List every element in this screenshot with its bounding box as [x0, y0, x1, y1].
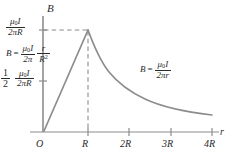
denominator-2piR: 2πR [6, 28, 25, 37]
y-tick-label-peak: μ0I 2πR [6, 17, 25, 37]
x-tick-label-2R: 2R [120, 139, 131, 149]
curve-inside-linear [44, 30, 88, 131]
x-axis-label: r [220, 127, 224, 137]
plot-canvas [0, 0, 230, 159]
denominator-2piR: 2πR [15, 79, 34, 88]
equals-sign: = [148, 65, 153, 74]
one-half-fraction: 1 2 [1, 68, 10, 89]
x-tick-label-4R: 4R [204, 139, 215, 149]
equation-lhs: B [140, 65, 146, 74]
equation-inside-wire: B = μ0I 2π r R2 [6, 44, 50, 64]
fraction-mu0I-over-2pi: μ0I 2π [21, 44, 36, 64]
x-tick-label-R: R [82, 139, 88, 149]
equation-outside-wire: B = μ0I 2πr [140, 60, 171, 80]
x-tick-label-3R: 3R [162, 139, 173, 149]
magnetic-field-graph-figure: B r μ0I 2πR 1 2 μ0I 2πR B [0, 0, 230, 159]
equation-lhs: B [6, 49, 12, 58]
fraction-r-over-R-squared: r R2 [37, 44, 50, 64]
equals-sign: = [14, 49, 19, 58]
x-tick-label-origin: O [36, 139, 43, 149]
current-symbol: I [18, 16, 21, 26]
y-axis-label: B [47, 3, 54, 14]
current-symbol: I [27, 68, 30, 78]
fraction-mu0I-over-2pir: μ0I 2πr [155, 60, 172, 80]
y-tick-label-half: 1 2 μ0I 2πR [1, 68, 34, 89]
